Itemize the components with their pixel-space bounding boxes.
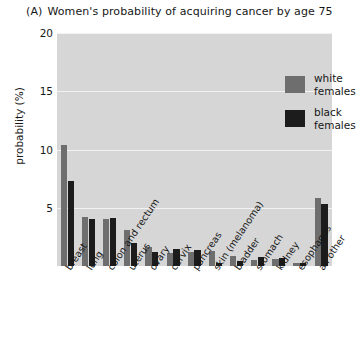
legend-swatch-white-females — [285, 76, 305, 93]
x-axis-tick-labels: breastlungcolon and rectumuterusovarycer… — [0, 266, 356, 363]
legend-label: white females — [314, 72, 356, 97]
bar-group — [145, 33, 158, 266]
title-text: Women's probability of acquiring cancer … — [47, 5, 332, 18]
legend: white femalesblack females — [285, 74, 356, 142]
bars-layer — [57, 33, 332, 266]
bar-group — [251, 33, 264, 266]
y-tick-label-5: 5 — [5, 202, 53, 214]
plot-area: white femalesblack females — [57, 33, 332, 266]
legend-item: black females — [285, 108, 356, 142]
legend-swatch-black-females — [285, 110, 305, 127]
bar — [82, 217, 88, 266]
y-tick-label-15: 15 — [5, 85, 53, 97]
bar-group — [167, 33, 180, 266]
figure-panel-a: (A)Women's probability of acquiring canc… — [0, 0, 356, 363]
bar — [61, 145, 67, 266]
bar-group — [293, 33, 306, 266]
bar-group — [61, 33, 74, 266]
bar-group — [272, 33, 285, 266]
legend-label: black females — [314, 106, 356, 131]
y-tick-label-20: 20 — [5, 27, 53, 39]
bar-group — [82, 33, 95, 266]
bar-group — [103, 33, 116, 266]
legend-item: white females — [285, 74, 356, 108]
figure-title: (A)Women's probability of acquiring canc… — [26, 5, 333, 18]
bar-group — [188, 33, 201, 266]
y-tick-label-10: 10 — [5, 144, 53, 156]
y-axis-ticks: 5101520 — [0, 33, 53, 266]
panel-letter: (A) — [26, 5, 42, 18]
